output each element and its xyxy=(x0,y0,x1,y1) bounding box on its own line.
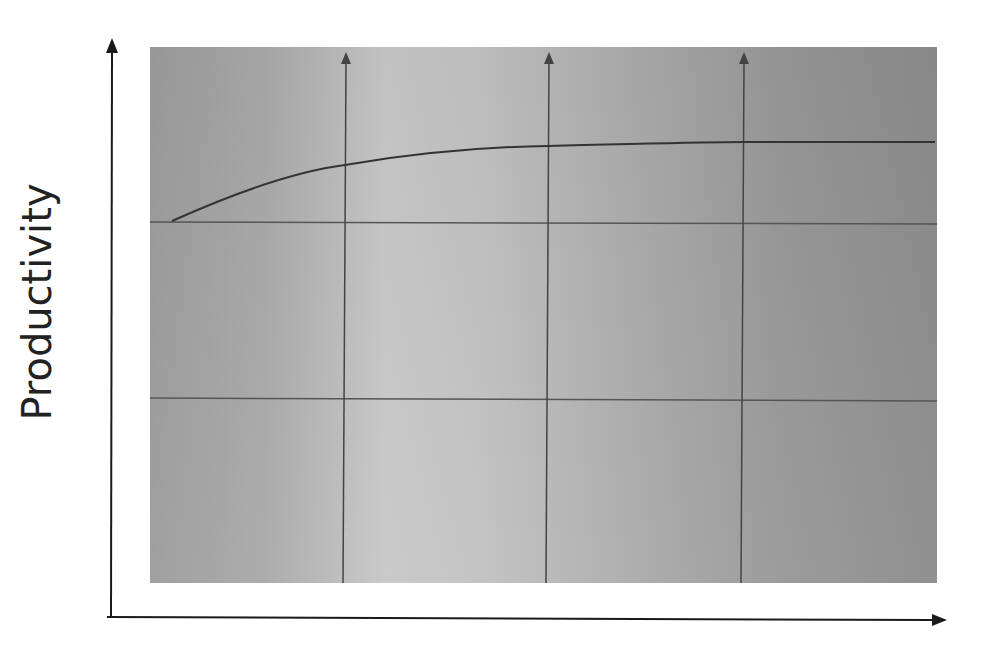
y-axis xyxy=(106,38,118,617)
y-axis-label: Productivity xyxy=(12,182,62,422)
vertical-marker-arrow xyxy=(544,52,554,583)
chart-overlay xyxy=(0,0,983,662)
arrowhead-icon xyxy=(341,52,351,64)
vertical-marker-arrow xyxy=(739,52,749,583)
productivity-curve xyxy=(172,142,935,221)
x-axis xyxy=(107,614,947,626)
arrowhead-icon xyxy=(544,52,554,64)
y-axis-arrowhead-icon xyxy=(106,38,118,53)
x-axis-arrowhead-icon xyxy=(932,614,947,626)
gridline-horizontal xyxy=(150,222,937,224)
arrowhead-icon xyxy=(739,52,749,64)
gridline-horizontal xyxy=(150,398,937,401)
vertical-marker-arrow xyxy=(341,52,351,583)
